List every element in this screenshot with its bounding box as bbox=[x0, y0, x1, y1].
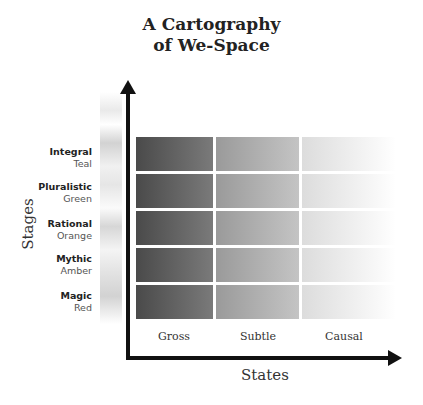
grid-cell-subtle bbox=[216, 137, 299, 171]
title-line-1: A Cartography bbox=[0, 14, 423, 35]
stage-gradient-strip bbox=[100, 92, 122, 324]
stage-color: Amber bbox=[20, 265, 92, 277]
stage-label-pluralistic: Pluralistic Green bbox=[20, 181, 92, 205]
grid-cell-subtle bbox=[216, 248, 299, 282]
stage-name: Rational bbox=[20, 218, 92, 230]
grid-cell-subtle bbox=[216, 211, 299, 245]
grid-cell-gross bbox=[136, 137, 213, 171]
title-line-2: of We-Space bbox=[0, 35, 423, 56]
grid-cell-causal bbox=[302, 174, 396, 208]
stage-color: Green bbox=[20, 193, 92, 205]
grid-cell-causal bbox=[302, 211, 396, 245]
stage-name: Integral bbox=[20, 146, 92, 158]
stage-color: Orange bbox=[20, 230, 92, 242]
grid-cell-gross bbox=[136, 248, 213, 282]
state-label-subtle: Subtle bbox=[218, 330, 298, 343]
state-label-gross: Gross bbox=[134, 330, 214, 343]
stage-color: Red bbox=[20, 302, 92, 314]
x-axis-label: States bbox=[225, 366, 305, 384]
grid-cell-gross bbox=[136, 285, 213, 319]
stage-color: Teal bbox=[20, 158, 92, 170]
stage-label-mythic: Mythic Amber bbox=[20, 253, 92, 277]
stage-label-integral: Integral Teal bbox=[20, 146, 92, 170]
grid-cell-gross bbox=[136, 174, 213, 208]
stage-label-magic: Magic Red bbox=[20, 290, 92, 314]
diagram-title: A Cartography of We-Space bbox=[0, 14, 423, 56]
stage-name: Magic bbox=[20, 290, 92, 302]
grid-cell-subtle bbox=[216, 285, 299, 319]
grid-cell-causal bbox=[302, 285, 396, 319]
y-axis-arrow-icon bbox=[120, 80, 136, 94]
x-axis-line bbox=[126, 356, 390, 360]
stage-name: Mythic bbox=[20, 253, 92, 265]
y-axis-line bbox=[126, 92, 130, 360]
state-label-causal: Causal bbox=[304, 330, 384, 343]
stage-name: Pluralistic bbox=[20, 181, 92, 193]
grid-cell-causal bbox=[302, 137, 396, 171]
x-axis-arrow-icon bbox=[388, 350, 402, 366]
grid-cell-subtle bbox=[216, 174, 299, 208]
stage-label-rational: Rational Orange bbox=[20, 218, 92, 242]
grid-cell-gross bbox=[136, 211, 213, 245]
grid-cell-causal bbox=[302, 248, 396, 282]
